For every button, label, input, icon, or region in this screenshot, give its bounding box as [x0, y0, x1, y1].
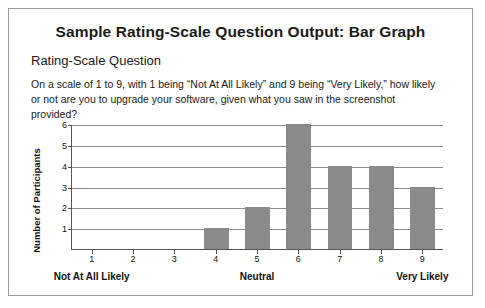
- x-axis-tick-mark: [133, 250, 134, 254]
- x-axis-tick-mark: [257, 250, 258, 254]
- bar-cell: [319, 125, 360, 249]
- bar-cell: [402, 125, 443, 249]
- x-axis-tick-label: 3: [154, 250, 195, 266]
- bar[interactable]: [245, 207, 270, 249]
- y-axis-label-text: Number of Participants: [31, 148, 42, 253]
- y-axis-tick-label: 6: [62, 120, 67, 130]
- bar-cell: [196, 125, 237, 249]
- question-prompt: On a scale of 1 to 9, with 1 being “Not …: [31, 77, 443, 122]
- anchor-label: Very Likely: [396, 271, 448, 282]
- bar-cell: [361, 125, 402, 249]
- bar[interactable]: [328, 166, 353, 249]
- x-axis-tick-mark: [422, 250, 423, 254]
- bar[interactable]: [410, 187, 435, 250]
- plot-area: 123456: [71, 125, 443, 250]
- bar-chart: Number of Participants 123456 123456789 …: [31, 125, 451, 277]
- page-title: Sample Rating-Scale Question Output: Bar…: [9, 23, 472, 41]
- bar-cell: [113, 125, 154, 249]
- bar[interactable]: [204, 228, 229, 249]
- x-axis-tick-mark: [174, 250, 175, 254]
- x-axis-tick-mark: [340, 250, 341, 254]
- x-axis-tick-label: 6: [278, 250, 319, 266]
- bar-cell: [154, 125, 195, 249]
- y-axis-tick-label: 5: [62, 141, 67, 151]
- anchor-label: Neutral: [240, 271, 274, 282]
- x-axis-tick-mark: [216, 250, 217, 254]
- anchor-label: Not At All Likely: [54, 271, 130, 282]
- y-axis-tick-label: 3: [62, 183, 67, 193]
- x-axis-tick-label: 9: [402, 250, 443, 266]
- x-axis-tick-label: 7: [319, 250, 360, 266]
- x-axis-tick-mark: [298, 250, 299, 254]
- x-axis-tick-mark: [92, 250, 93, 254]
- x-axis-tick-label: 1: [71, 250, 112, 266]
- x-axis-tick-label: 8: [360, 250, 401, 266]
- bar-cell: [72, 125, 113, 249]
- chart-card: Sample Rating-Scale Question Output: Bar…: [8, 8, 473, 296]
- bar[interactable]: [369, 166, 394, 249]
- y-axis-label: Number of Participants: [29, 133, 43, 268]
- y-axis-tick-label: 1: [62, 224, 67, 234]
- x-axis-tick-label: 2: [112, 250, 153, 266]
- x-axis-ticks: 123456789: [71, 250, 443, 266]
- x-axis-tick-label: 5: [236, 250, 277, 266]
- x-axis-tick-mark: [381, 250, 382, 254]
- y-axis-tick-label: 4: [62, 162, 67, 172]
- bar-cell: [278, 125, 319, 249]
- y-axis-tick-label: 2: [62, 203, 67, 213]
- bar-series: [72, 125, 443, 249]
- x-axis-tick-label: 4: [195, 250, 236, 266]
- bar[interactable]: [286, 124, 311, 249]
- question-type-heading: Rating-Scale Question: [31, 53, 161, 68]
- bar-cell: [237, 125, 278, 249]
- x-axis-anchor-labels: Not At All LikelyNeutralVery Likely: [71, 271, 443, 287]
